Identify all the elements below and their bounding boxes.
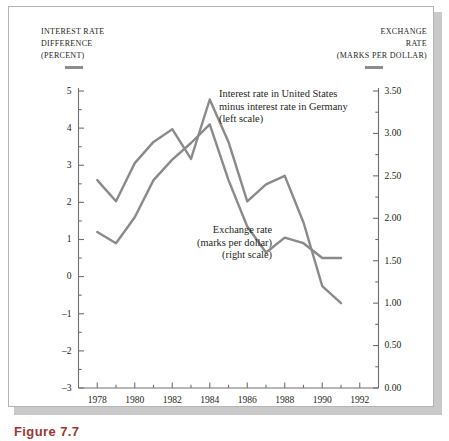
left-tick-0: 0 (32, 270, 72, 281)
left-tick-2: 2 (32, 196, 72, 207)
exchange-rate-line (97, 99, 341, 303)
interest-rate-annotation-line2: minus interest rate in Germany (219, 101, 348, 114)
left-tick-5: 5 (32, 85, 72, 96)
figure-caption: Figure 7.7 (14, 424, 79, 439)
right-tick-1.00: 1.00 (385, 297, 402, 308)
exchange-rate-annotation-line3: (right scale) (154, 249, 272, 262)
x-tick-1992: 1992 (335, 394, 385, 405)
chart-plot (0, 0, 449, 441)
exchange-rate-annotation-line2: (marks per dollar) (154, 237, 272, 250)
left-tick-3: 3 (32, 159, 72, 170)
left-tick-–3: –3 (32, 382, 72, 393)
figure-page: Interest rate Difference (Percent) Excha… (0, 0, 449, 441)
right-tick-3.50: 3.50 (385, 85, 402, 96)
interest-rate-annotation: Interest rate in United States minus int… (219, 88, 348, 126)
chart-canvas: Interest rate Difference (Percent) Excha… (0, 0, 449, 441)
exchange-rate-annotation: Exchange rate (marks per dollar) (right … (154, 224, 272, 262)
right-tick-2.00: 2.00 (385, 212, 402, 223)
data-series-lines (97, 99, 341, 303)
left-tick-4: 4 (32, 122, 72, 133)
right-tick-3.00: 3.00 (385, 127, 402, 138)
left-tick-–2: –2 (32, 345, 72, 356)
left-tick-–1: –1 (32, 308, 72, 319)
right-tick-1.50: 1.50 (385, 255, 402, 266)
right-tick-0.00: 0.00 (385, 382, 402, 393)
right-tick-2.50: 2.50 (385, 170, 402, 181)
interest-rate-annotation-line1: Interest rate in United States (219, 88, 348, 101)
right-tick-0.50: 0.50 (385, 339, 402, 350)
left-tick-1: 1 (32, 233, 72, 244)
interest-rate-annotation-line3: (left scale) (219, 113, 348, 126)
exchange-rate-annotation-line1: Exchange rate (154, 224, 272, 237)
